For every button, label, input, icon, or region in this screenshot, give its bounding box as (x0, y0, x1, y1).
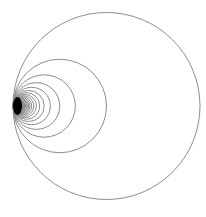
tangent-circles-diagram (0, 0, 206, 217)
nested-circles-group (13, 13, 200, 200)
dense-core (13, 97, 22, 115)
